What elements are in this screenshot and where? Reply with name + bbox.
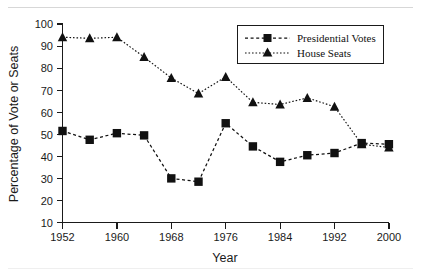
- y-tick-label: 80: [41, 62, 53, 74]
- data-point-triangle: [221, 72, 231, 81]
- x-tick-label: 1960: [105, 231, 129, 243]
- square-marker-icon: [264, 34, 272, 42]
- x-tick-label: 1976: [213, 231, 237, 243]
- data-point-triangle: [139, 52, 149, 61]
- data-point-triangle: [194, 88, 204, 97]
- y-tick-label: 90: [41, 40, 53, 52]
- data-point-square: [113, 129, 121, 137]
- y-tick-label: 40: [41, 151, 53, 163]
- chart-legend: Presidential Votes House Seats: [238, 26, 384, 64]
- data-point-square: [58, 127, 66, 135]
- x-tick-label: 1992: [322, 231, 346, 243]
- data-point-square: [249, 142, 257, 150]
- legend-label: Presidential Votes: [297, 32, 376, 44]
- data-point-triangle: [330, 102, 340, 111]
- y-tick-label: 100: [35, 18, 53, 30]
- data-point-triangle: [167, 73, 177, 82]
- x-axis-title: Year: [212, 251, 237, 265]
- y-tick-label: 60: [41, 107, 53, 119]
- data-point-triangle: [85, 33, 95, 42]
- x-tick-marks: [63, 223, 389, 229]
- x-tick-label: 1984: [268, 231, 292, 243]
- data-point-square: [140, 131, 148, 139]
- y-tick-label: 50: [41, 129, 53, 141]
- y-tick-label: 30: [41, 173, 53, 185]
- x-tick-label: 1968: [159, 231, 183, 243]
- data-point-square: [86, 136, 94, 144]
- data-point-square: [303, 151, 311, 159]
- y-tick-label: 20: [41, 195, 53, 207]
- data-point-triangle: [58, 32, 68, 41]
- legend-label: House Seats: [297, 47, 351, 59]
- y-tick-marks: [57, 24, 63, 223]
- y-axis-title: Percentage of Vote or Seats: [7, 46, 21, 202]
- y-tick-label: 70: [41, 85, 53, 97]
- series-line: [63, 123, 389, 181]
- data-point-square: [330, 149, 338, 157]
- y-tick-label: 10: [41, 217, 53, 229]
- data-point-triangle: [112, 32, 122, 41]
- data-point-square: [194, 178, 202, 186]
- x-tick-label: 1952: [50, 231, 74, 243]
- x-tick-label: 2000: [377, 231, 401, 243]
- data-point-square: [222, 119, 230, 127]
- chart-figure: 100 90 80 70 60 50 40 30 20 10 1952 1960…: [0, 0, 421, 274]
- data-point-square: [167, 174, 175, 182]
- series-presidential-votes: [58, 119, 393, 186]
- line-chart: 100 90 80 70 60 50 40 30 20 10 1952 1960…: [0, 0, 421, 274]
- y-tick-labels: 100 90 80 70 60 50 40 30 20 10: [35, 18, 53, 229]
- data-point-square: [276, 158, 284, 166]
- data-point-triangle: [303, 93, 313, 102]
- x-tick-labels: 1952 1960 1968 1976 1984 1992 2000: [50, 231, 401, 243]
